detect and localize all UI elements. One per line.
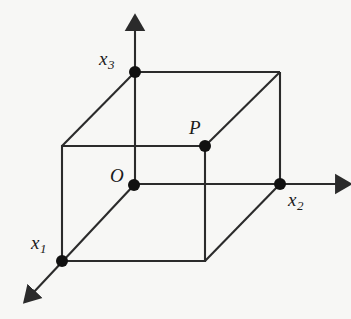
axis-label-x2-base: x — [288, 189, 296, 210]
axis-label-x2-sub: 2 — [297, 198, 304, 213]
axis-label-x3-base: x — [99, 48, 107, 69]
cube-edge-p-back-diag — [205, 72, 280, 146]
axis-label-x3-sub: 3 — [108, 57, 115, 72]
point-x2-vertex — [274, 178, 286, 190]
point-p — [199, 140, 211, 152]
x1-axis — [33, 185, 134, 293]
geometry-figure: x3 x2 x1 O P — [0, 0, 351, 319]
figure-canvas — [0, 0, 351, 319]
axis-label-x1: x1 — [31, 233, 46, 255]
cube-edge-bottom-right-diag — [205, 184, 280, 261]
point-label-origin: O — [110, 166, 124, 185]
point-label-p: P — [189, 118, 201, 137]
point-origin — [128, 179, 140, 191]
point-x3-vertex — [129, 66, 141, 78]
axis-label-x2: x2 — [288, 190, 303, 212]
axis-label-x1-base: x — [31, 232, 39, 253]
cube-edge-top-left-diag — [62, 71, 136, 146]
axis-label-x1-sub: 1 — [40, 241, 47, 256]
point-x1-vertex — [56, 255, 68, 267]
axis-label-x3: x3 — [99, 49, 114, 71]
